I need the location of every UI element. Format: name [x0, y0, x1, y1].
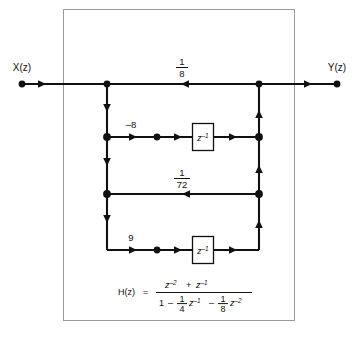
upper-branch-arrow-2-icon [174, 133, 182, 141]
equation-den-frac1-den: 4 [179, 304, 184, 314]
equation-den-frac2-num: 1 [220, 294, 225, 304]
gain-top-numerator: 1 [179, 56, 184, 67]
node-right-top [256, 81, 263, 88]
equation-num-term1: z–2 [164, 279, 177, 290]
figure-canvas: z–1 z–1 X(z) Y(z) 1 8 –8 1 72 [0, 0, 358, 339]
left-rail-arrow-1-icon [103, 104, 111, 112]
equation-num-plus: + [186, 280, 191, 290]
gain-middle-numerator: 1 [179, 167, 184, 178]
equation-den-frac2-den: 8 [220, 304, 225, 314]
node-lower-branch-tap [154, 247, 161, 254]
equation-lhs: H(z) [118, 287, 135, 297]
upper-branch-arrow-3-icon [229, 133, 237, 141]
gain-label-lower-branch: 9 [128, 232, 133, 243]
equation-den-minus2: – [209, 298, 214, 308]
left-rail-arrow-3-icon [103, 215, 111, 223]
output-terminal-dot [334, 81, 341, 88]
top-feedback-arrow-icon [181, 80, 189, 88]
left-rail-arrow-2-icon [103, 158, 111, 166]
equation-den-minus1: – [168, 298, 173, 308]
gain-middle-denominator: 72 [177, 179, 188, 190]
input-terminal-dot [19, 81, 26, 88]
node-upper-branch-tap [154, 134, 161, 141]
gain-label-top-feedback: 1 8 [176, 56, 188, 79]
lower-branch-arrow-2-icon [174, 246, 182, 254]
input-arrow-icon [38, 80, 46, 88]
input-label: X(z) [13, 62, 31, 73]
right-rail-arrow-1-icon [255, 110, 263, 118]
signal-flow-graph-figure: z–1 z–1 X(z) Y(z) 1 8 –8 1 72 [0, 0, 358, 339]
gain-top-denominator: 8 [179, 68, 184, 79]
equation-num-term2: z–1 [195, 279, 208, 290]
equation-den-one: 1 [159, 298, 164, 308]
middle-feedback-arrow-icon [182, 190, 190, 198]
transfer-function-equation: H(z) = z–2 + z–1 1 – 1 4 z–1 – 1 8 z–2 [118, 279, 252, 314]
equation-den-var2: z–2 [229, 297, 242, 308]
equation-equals: = [143, 287, 148, 297]
lower-branch-arrow-1-icon [129, 246, 137, 254]
output-label: Y(z) [328, 62, 346, 73]
gain-label-middle-feedback: 1 72 [174, 167, 190, 190]
upper-branch-arrow-1-icon [129, 133, 137, 141]
right-rail-arrow-2-icon [255, 165, 263, 173]
right-rail-arrow-3-icon [255, 220, 263, 228]
gain-label-upper-branch: –8 [126, 119, 137, 130]
output-arrow-icon [304, 80, 312, 88]
lower-branch-arrow-3-icon [229, 246, 237, 254]
equation-den-var1: z–1 [188, 297, 201, 308]
node-left-top [104, 81, 111, 88]
equation-den-frac1-num: 1 [179, 294, 184, 304]
